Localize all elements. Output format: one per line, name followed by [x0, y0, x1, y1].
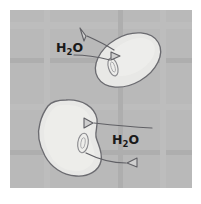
osmosis-diagram-canvas: H2O H2O: [0, 0, 201, 204]
label-water-top-h: H: [56, 40, 66, 55]
label-water-bottom-h: H: [112, 132, 122, 147]
osmosis-figure: H2O H2O: [0, 0, 201, 204]
label-water-top-o: O: [72, 40, 83, 55]
label-water-bottom-o: O: [128, 132, 139, 147]
